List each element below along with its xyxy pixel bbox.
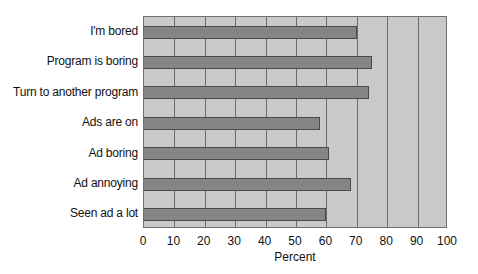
bar bbox=[144, 208, 326, 221]
x-tick-label: 0 bbox=[140, 234, 147, 248]
x-tick-label: 60 bbox=[319, 234, 332, 248]
category-label: I'm bored bbox=[90, 24, 138, 38]
x-tick-label: 50 bbox=[288, 234, 301, 248]
category-label: Ad boring bbox=[88, 146, 138, 160]
x-axis-label: Percent bbox=[274, 250, 315, 264]
gridline bbox=[326, 17, 327, 227]
x-tick-label: 100 bbox=[437, 234, 457, 248]
gridline bbox=[387, 17, 388, 227]
bar bbox=[144, 26, 357, 39]
x-tick-label: 20 bbox=[197, 234, 210, 248]
gridline bbox=[357, 17, 358, 227]
category-label: Seen ad a lot bbox=[70, 206, 138, 220]
x-tick-label: 40 bbox=[258, 234, 271, 248]
category-label: Ads are on bbox=[82, 115, 138, 129]
x-tick-label: 30 bbox=[228, 234, 241, 248]
category-label: Turn to another program bbox=[13, 85, 138, 99]
x-tick-label: 70 bbox=[349, 234, 362, 248]
x-tick-label: 10 bbox=[167, 234, 180, 248]
bar bbox=[144, 178, 351, 191]
bar bbox=[144, 117, 320, 130]
bar bbox=[144, 147, 329, 160]
gridline bbox=[418, 17, 419, 227]
bar bbox=[144, 86, 369, 99]
x-tick-label: 90 bbox=[410, 234, 423, 248]
bar bbox=[144, 56, 372, 69]
category-label: Program is boring bbox=[47, 54, 138, 68]
x-tick-label: 80 bbox=[380, 234, 393, 248]
plot-area bbox=[143, 16, 447, 228]
category-label: Ad annoying bbox=[73, 176, 138, 190]
